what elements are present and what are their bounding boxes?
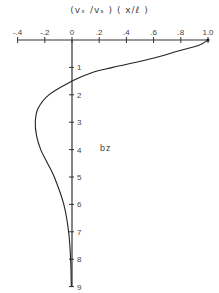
- y-tick-label: 1: [77, 63, 81, 72]
- y-tick-label: 2: [77, 90, 81, 99]
- x-tick-label: .2: [96, 28, 103, 37]
- y-tick-label: 6: [77, 200, 81, 209]
- x-tick-label: 1.0: [202, 28, 213, 37]
- x-tick-label: -.4: [13, 28, 22, 37]
- y-tick-label: 8: [77, 255, 81, 264]
- y-tick-label: 3: [77, 118, 81, 127]
- x-tick-label: .4: [123, 28, 130, 37]
- y-tick-label: 4: [77, 145, 81, 154]
- x-tick-label: .6: [150, 28, 157, 37]
- line-chart: [0, 0, 219, 293]
- x-tick-label: .8: [177, 28, 184, 37]
- x-tick-label: 0: [70, 28, 74, 37]
- y-tick-label: 9: [77, 282, 81, 291]
- y-tick-label: 7: [77, 227, 81, 236]
- y-tick-label: 5: [77, 173, 81, 182]
- x-tick-label: -.2: [40, 28, 49, 37]
- data-curve: [35, 40, 208, 287]
